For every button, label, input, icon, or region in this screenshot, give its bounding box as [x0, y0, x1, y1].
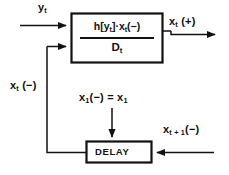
main-block-numerator: h[yt]·xt(−)	[94, 21, 140, 37]
label-y-input-subscript: t	[44, 6, 47, 15]
label-x-output-sign: (+)	[178, 15, 196, 27]
main-block-denominator: Dt	[112, 39, 123, 55]
label-x-output: xt (+)	[169, 16, 196, 28]
label-x-initial-mid: (−) = x	[90, 91, 124, 103]
label-y-input: yt	[38, 2, 47, 14]
label-x-tplus1-subscript: t + 1	[169, 128, 185, 137]
label-x-tplus1-sign: (−)	[185, 123, 199, 135]
label-x-initial-condition: x1(−) = x1	[79, 92, 128, 104]
block-diagram-canvas: h[yt]·xt(−) Dt yt xt (+) xt (−) x1(−) = …	[0, 0, 229, 175]
label-x-feedback: xt (−)	[10, 80, 37, 92]
denominator-d-subscript: t	[120, 46, 123, 55]
label-x-feedback-sign: (−)	[19, 79, 37, 91]
numerator-sign: (−)	[127, 20, 140, 32]
main-output-arrow-corner	[171, 31, 215, 35]
label-x-t-plus-1: xt + 1(−)	[163, 124, 199, 136]
denominator-d: D	[112, 41, 120, 53]
main-block-expression: h[yt]·xt(−) Dt	[74, 15, 160, 61]
label-x-initial-subscript-2: 1	[123, 96, 127, 105]
delay-block-label: DELAY	[95, 147, 129, 157]
